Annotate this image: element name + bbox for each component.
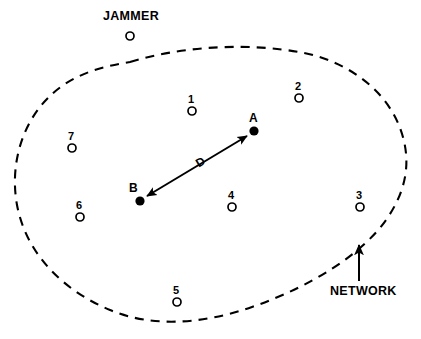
endpoint-marker-b [135,196,144,205]
node-marker-2 [295,94,303,102]
node-marker-3 [356,203,364,211]
endpoint-marker-a [249,126,258,135]
node-label-5: 5 [173,285,179,296]
node-label-6: 6 [76,200,82,211]
node-label-2: 2 [295,81,301,92]
network-label: NETWORK [330,285,397,298]
node-label-7: 7 [68,131,74,142]
network-boundary-path [15,47,406,322]
node-marker-4 [228,203,236,211]
node-marker-1 [188,107,196,115]
jammer-label: JAMMER [103,10,159,23]
endpoint-label-a: A [249,112,258,124]
node-label-3: 3 [356,190,362,201]
node-label-4: 4 [228,190,234,201]
endpoint-label-b: B [129,182,138,194]
node-label-1: 1 [188,94,194,105]
node-marker-7 [68,144,76,152]
diagram-canvas: JAMMER NETWORK 1 2 3 4 5 6 7 A B D [0,0,421,339]
node-marker-6 [76,213,84,221]
jammer-marker-icon [126,32,134,40]
node-marker-5 [173,298,181,306]
